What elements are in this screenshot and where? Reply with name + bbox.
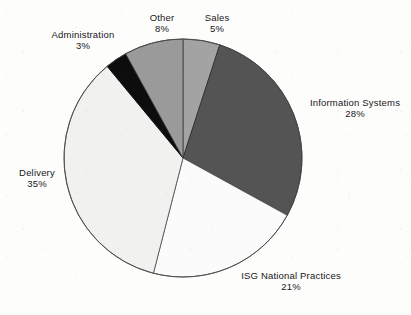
pie-label-information-systems-value: 28%	[300, 108, 410, 119]
pie-label-administration: Administration 3%	[31, 29, 135, 51]
pie-label-other-value: 8%	[135, 23, 189, 34]
pie-label-administration-name: Administration	[31, 29, 135, 40]
pie-label-delivery: Delivery 35%	[6, 167, 68, 189]
pie-chart: Administration 3% Other 8% Sales 5% Info…	[0, 0, 411, 315]
pie-label-other: Other 8%	[135, 12, 189, 34]
pie-label-delivery-name: Delivery	[6, 167, 68, 178]
pie-label-isg-national-practices-value: 21%	[228, 281, 354, 292]
pie-label-delivery-value: 35%	[6, 178, 68, 189]
pie-label-sales-name: Sales	[191, 12, 243, 23]
pie-label-sales: Sales 5%	[191, 12, 243, 34]
pie-label-administration-value: 3%	[31, 40, 135, 51]
pie-label-information-systems-name: Information Systems	[300, 97, 410, 108]
pie-label-isg-national-practices: ISG National Practices 21%	[228, 270, 354, 292]
pie-label-isg-national-practices-name: ISG National Practices	[228, 270, 354, 281]
pie-label-information-systems: Information Systems 28%	[300, 97, 410, 119]
pie-label-other-name: Other	[135, 12, 189, 23]
pie-label-sales-value: 5%	[191, 23, 243, 34]
pie-slice-group	[64, 39, 302, 277]
